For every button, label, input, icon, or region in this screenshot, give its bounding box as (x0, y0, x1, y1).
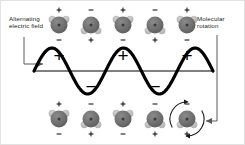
plus-charge-icon (122, 102, 123, 107)
minus-charge-icon (185, 103, 190, 104)
right-leader-arrow (206, 35, 217, 121)
molecule-center-dot (186, 118, 189, 121)
molecule-center-dot (122, 118, 125, 121)
minus-charge-icon (121, 39, 126, 40)
water-molecule-icon (49, 102, 70, 135)
plus-charge-icon (58, 102, 59, 107)
molecule-center-dot (58, 118, 61, 121)
plus-charge-icon (122, 8, 123, 13)
wave-minus-sign: − (85, 76, 96, 97)
diagram-canvas: +++−− Alternating electric field Molecul… (0, 0, 245, 145)
minus-charge-icon (89, 9, 94, 10)
molecule-center-dot (154, 24, 157, 27)
wave-plus-sign: + (181, 45, 192, 66)
water-molecule-icon (81, 9, 102, 42)
water-molecule-icon (81, 103, 102, 136)
plus-charge-icon (154, 132, 155, 137)
water-molecule-icon (145, 9, 166, 42)
water-molecule-icon (177, 103, 198, 136)
minus-charge-icon (57, 133, 62, 134)
molecule-center-dot (58, 24, 61, 27)
plus-charge-icon (58, 8, 59, 13)
water-molecule-icon (113, 8, 134, 41)
water-molecule-icon (145, 103, 166, 136)
plus-charge-icon (186, 8, 187, 13)
minus-charge-icon (153, 9, 158, 10)
water-molecule-icon (177, 8, 198, 41)
minus-charge-icon (121, 133, 126, 134)
wave-plus-sign: + (53, 45, 64, 66)
water-molecule-icon (113, 102, 134, 135)
plus-charge-icon (154, 38, 155, 43)
plus-charge-icon (90, 132, 91, 137)
minus-charge-icon (185, 39, 190, 40)
minus-charge-icon (153, 103, 158, 104)
wave-plus-sign: + (117, 45, 128, 66)
plus-charge-icon (90, 38, 91, 43)
alternating-electric-field-label: Alternating electric field (9, 15, 55, 30)
molecule-center-dot (154, 118, 157, 121)
molecular-rotation-label: Molecular rotation (197, 15, 241, 30)
molecule-center-dot (186, 24, 189, 27)
minus-charge-icon (57, 39, 62, 40)
wave-minus-sign: − (149, 76, 160, 97)
molecule-center-dot (90, 118, 93, 121)
molecule-center-dot (90, 24, 93, 27)
molecule-center-dot (122, 24, 125, 27)
minus-charge-icon (89, 103, 94, 104)
